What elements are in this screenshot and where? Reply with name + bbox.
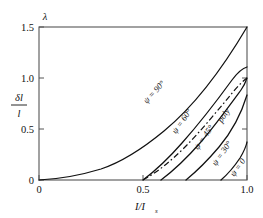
y-tick-label-1p0: 1.0	[21, 73, 34, 84]
y-axis-title-numerator: δl	[15, 92, 23, 103]
y-tick-label-0: 0	[29, 175, 34, 186]
lambda-symbol: λ	[42, 11, 48, 22]
x-axis-title: I/I s	[134, 201, 158, 215]
x-tick-label-1p0: 1.0	[240, 184, 253, 195]
line-chart: 1.5 1.0 0.5 0 0 0.5 1.0 λ δl l I/I s	[0, 0, 263, 218]
curve-label-psi-60: ψ = 60°	[170, 107, 194, 136]
y-axis-ticks	[39, 27, 44, 180]
x-tick-label-0: 0	[36, 184, 41, 195]
y-tick-label-0p5: 0.5	[21, 124, 34, 135]
x-tick-label-0p5: 0.5	[136, 184, 149, 195]
x-axis-title-main: I/I	[134, 201, 145, 212]
x-axis-title-subscript: s	[155, 207, 158, 215]
figure-container: 1.5 1.0 0.5 0 0 0.5 1.0 λ δl l I/I s	[0, 0, 263, 218]
curve-label-psi-90: ψ = 90°	[141, 78, 167, 105]
curve-label-psi-0: ψ = 0	[228, 156, 248, 178]
y-axis-title: δl l	[11, 92, 27, 119]
y-axis-title-denominator: l	[18, 108, 21, 119]
y-tick-label-1p5: 1.5	[21, 22, 34, 33]
